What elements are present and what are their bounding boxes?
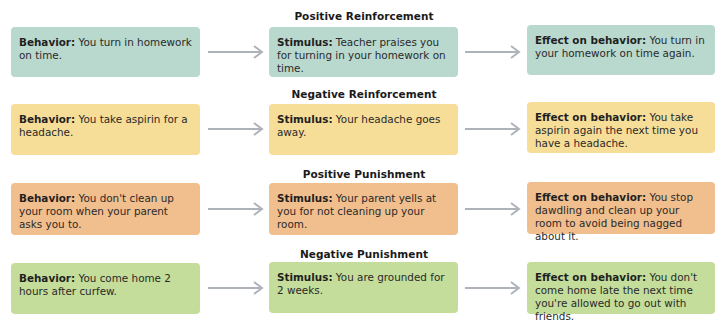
arrow-right-icon xyxy=(465,281,521,295)
effect-box: Effect on behavior: You turn in your hom… xyxy=(527,25,715,75)
stimulus-box: Stimulus: Your headache goes away. xyxy=(269,104,458,155)
arrow-right-icon xyxy=(208,122,264,136)
stimulus-label: Stimulus: xyxy=(277,113,333,125)
effect-label: Effect on behavior: xyxy=(535,271,646,283)
behavior-label: Behavior: xyxy=(19,192,75,204)
stimulus-box: Stimulus: Teacher praises you for turnin… xyxy=(269,27,458,77)
behavior-label: Behavior: xyxy=(19,113,75,125)
effect-box: Effect on behavior: You stop dawdling an… xyxy=(527,182,715,234)
effect-label: Effect on behavior: xyxy=(535,111,646,123)
arrow-right-icon xyxy=(465,122,521,136)
behavior-box: Behavior: You take aspirin for a headach… xyxy=(11,104,200,155)
effect-box: Effect on behavior: You take aspirin aga… xyxy=(527,102,715,153)
stimulus-label: Stimulus: xyxy=(277,192,333,204)
row-title: Positive Punishment xyxy=(0,168,728,180)
row-title: Positive Reinforcement xyxy=(0,10,728,22)
behavior-label: Behavior: xyxy=(19,36,75,48)
arrow-right-icon xyxy=(208,45,264,59)
row-title: Negative Reinforcement xyxy=(0,88,728,100)
effect-box: Effect on behavior: You don't come home … xyxy=(527,262,715,314)
behavior-box: Behavior: You turn in homework on time. xyxy=(11,27,200,77)
behavior-box: Behavior: You don't clean up your room w… xyxy=(11,183,200,235)
behavior-box: Behavior: You come home 2 hours after cu… xyxy=(11,263,200,314)
row-title: Negative Punishment xyxy=(0,248,728,260)
arrow-right-icon xyxy=(465,202,521,216)
arrow-right-icon xyxy=(208,281,264,295)
behavior-label: Behavior: xyxy=(19,272,75,284)
stimulus-box: Stimulus: You are grounded for 2 weeks. xyxy=(269,262,458,313)
stimulus-label: Stimulus: xyxy=(277,271,333,283)
effect-label: Effect on behavior: xyxy=(535,191,646,203)
stimulus-box: Stimulus: Your parent yells at you for n… xyxy=(269,183,458,235)
arrow-right-icon xyxy=(465,45,521,59)
arrow-right-icon xyxy=(208,202,264,216)
stimulus-label: Stimulus: xyxy=(277,36,333,48)
effect-label: Effect on behavior: xyxy=(535,34,646,46)
